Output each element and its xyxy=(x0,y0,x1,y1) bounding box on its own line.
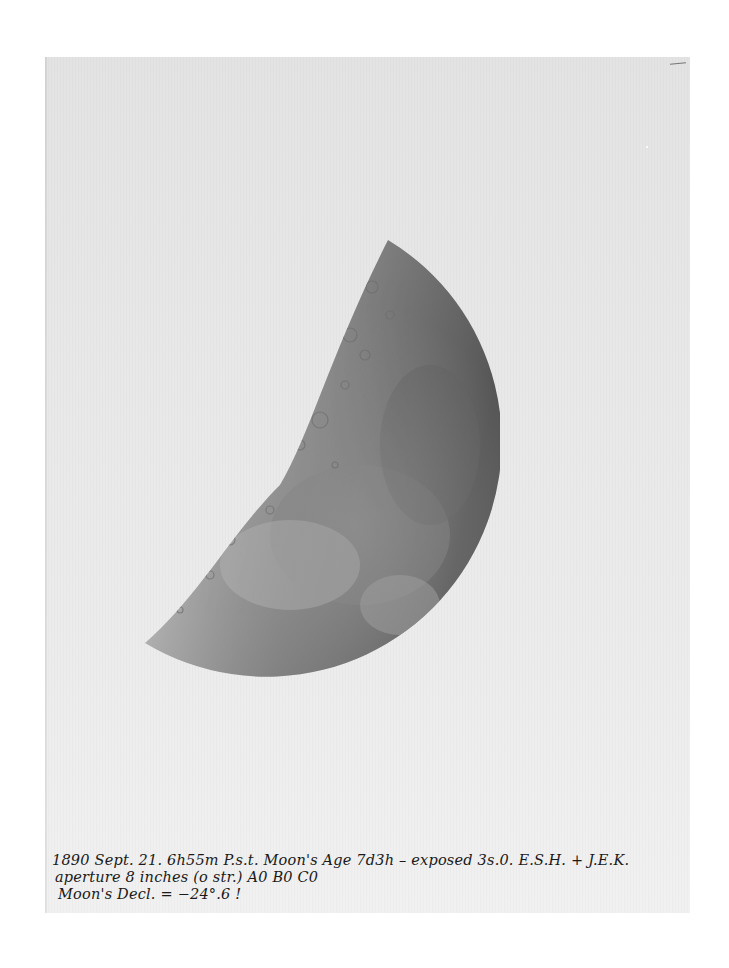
moon-image xyxy=(140,235,500,685)
handwritten-caption: 1890 Sept. 21. 6h55m P.s.t. Moon's Age 7… xyxy=(52,852,692,903)
caption-line-1: 1890 Sept. 21. 6h55m P.s.t. Moon's Age 7… xyxy=(52,852,692,869)
dust-speck xyxy=(646,146,648,148)
caption-line-3: Moon's Decl. = −24°.6 ! xyxy=(52,886,692,903)
caption-line-2: aperture 8 inches (o str.) A0 B0 C0 xyxy=(52,869,692,886)
